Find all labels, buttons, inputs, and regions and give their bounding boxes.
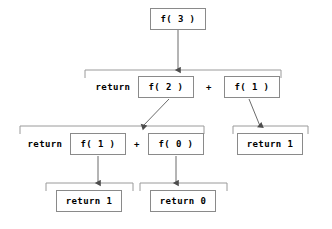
return-keyword: return: [89, 76, 137, 98]
node-box: f( 1 ): [70, 133, 126, 155]
node-box: f( 1 ): [224, 76, 280, 98]
node-box: return 1: [56, 190, 122, 212]
connector-layer: [98, 30, 260, 183]
node-box: f( 3 ): [150, 8, 206, 30]
plus-operator: +: [196, 76, 222, 98]
node-box: f( 0 ): [148, 133, 204, 155]
return-keyword: return: [21, 133, 69, 155]
connector-arrow: [249, 99, 260, 126]
node-box: return 1: [237, 133, 303, 155]
node-box: return 0: [150, 190, 216, 212]
node-box: f( 2 ): [138, 76, 194, 98]
plus-operator: +: [127, 133, 147, 155]
connector-arrow: [143, 99, 169, 126]
recursion-tree-diagram: f( 3 )f( 2 )f( 1 )f( 1 )f( 0 )return 1re…: [0, 0, 332, 229]
